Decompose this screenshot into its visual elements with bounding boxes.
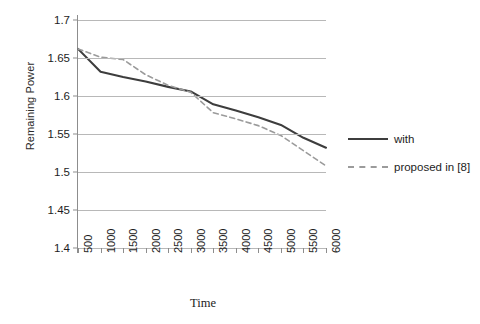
x-tick-label: 500 xyxy=(82,235,94,253)
gridline xyxy=(78,96,326,97)
y-tick-mark xyxy=(73,134,78,135)
gridline xyxy=(78,58,326,59)
x-tick-label: 4000 xyxy=(240,229,252,253)
legend-label: with xyxy=(394,133,414,145)
y-tick-label: 1.4 xyxy=(26,242,70,254)
legend-swatch-dashed xyxy=(348,162,388,172)
y-tick-label: 1.7 xyxy=(26,14,70,26)
legend-item[interactable]: with xyxy=(348,128,470,150)
legend-swatch-solid xyxy=(348,134,388,144)
legend-item[interactable]: proposed in [8] xyxy=(348,156,470,178)
x-tick-label: 5500 xyxy=(307,229,319,253)
legend-line-icon xyxy=(348,138,388,140)
y-tick-label: 1.65 xyxy=(26,52,70,64)
y-tick-mark xyxy=(73,58,78,59)
x-tick-label: 3000 xyxy=(195,229,207,253)
y-tick-label: 1.45 xyxy=(26,204,70,216)
x-tick-label: 1500 xyxy=(127,229,139,253)
series-line-proposed-in-8- xyxy=(78,49,326,166)
x-tick-label: 3500 xyxy=(217,229,229,253)
x-axis-tick-labels: 5001000150020002500300035004000450050005… xyxy=(78,253,328,295)
x-tick-label: 1000 xyxy=(105,229,117,253)
chart-legend: withproposed in [8] xyxy=(348,128,470,184)
gridline xyxy=(78,20,326,21)
legend-label: proposed in [8] xyxy=(394,161,470,173)
x-tick-label: 5000 xyxy=(285,229,297,253)
x-tick-label: 2500 xyxy=(172,229,184,253)
gridline xyxy=(78,172,326,173)
y-tick-mark xyxy=(73,20,78,21)
chart-container: Remaining Power 1.71.651.61.551.51.451.4… xyxy=(0,0,480,324)
gridline xyxy=(78,134,326,135)
x-axis-title: Time xyxy=(78,296,328,311)
y-axis-tick-labels: 1.71.651.61.551.51.451.4 xyxy=(30,14,74,254)
gridline xyxy=(78,210,326,211)
series-line-with xyxy=(78,49,326,148)
x-tick-label: 4500 xyxy=(262,229,274,253)
y-tick-label: 1.5 xyxy=(26,166,70,178)
y-tick-mark xyxy=(73,210,78,211)
y-tick-mark xyxy=(73,172,78,173)
x-tick-label: 2000 xyxy=(150,229,162,253)
y-tick-mark xyxy=(73,96,78,97)
y-tick-label: 1.6 xyxy=(26,90,70,102)
plot-area xyxy=(78,20,326,248)
x-tick-label: 6000 xyxy=(330,229,342,253)
y-tick-label: 1.55 xyxy=(26,128,70,140)
legend-line-icon xyxy=(348,166,388,168)
